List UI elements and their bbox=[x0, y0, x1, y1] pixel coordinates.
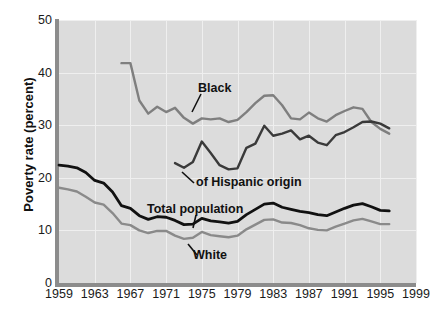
series-label-hispanic-origin: of Hispanic origin bbox=[196, 176, 302, 189]
poverty-rate-chart: 01020304050 1959196319671971197519791983… bbox=[0, 0, 441, 324]
series-line-black bbox=[121, 63, 389, 133]
series-label-black: Black bbox=[198, 82, 231, 95]
series-lines bbox=[0, 0, 441, 324]
series-label-white: White bbox=[193, 249, 227, 262]
series-line-of-hispanic-origin bbox=[175, 122, 389, 170]
series-label-total-population: Total population bbox=[147, 203, 243, 216]
